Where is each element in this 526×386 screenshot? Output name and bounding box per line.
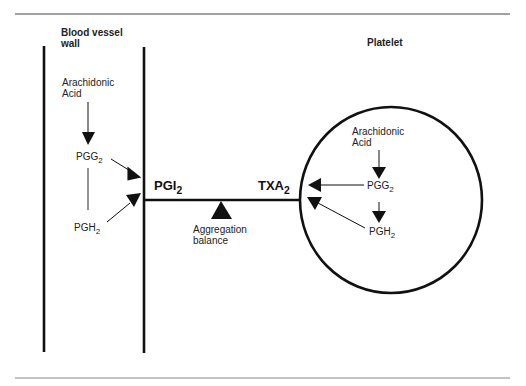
fulcrum-triangle-icon (211, 201, 232, 219)
vessel-wall-title: Blood vessel wall (61, 27, 123, 49)
vessel-pgg2-label: PGG2 (76, 151, 103, 162)
arrow-diagonal-icon (126, 166, 141, 181)
arrow-down-icon (372, 167, 386, 179)
vessel-pgh2-label: PGH2 (74, 222, 100, 233)
platelet-title: Platelet (367, 37, 403, 48)
txa2-label: TXA2 (258, 178, 290, 193)
diagram-canvas (0, 0, 526, 386)
aggregation-balance-label: Aggregation balance (193, 224, 247, 246)
platelet-pgg2-label: PGG2 (367, 180, 394, 191)
vessel-arachidonic-acid-label: Arachidonic Acid (62, 77, 114, 99)
platelet-pgh2-label: PGH2 (369, 226, 395, 237)
arrow-down-icon (82, 132, 95, 145)
arrow-left-icon (308, 178, 321, 192)
platelet-arachidonic-acid-label: Arachidonic Acid (352, 126, 404, 148)
pgi2-label: PGI2 (154, 178, 182, 193)
arrow-down-icon (372, 211, 386, 223)
